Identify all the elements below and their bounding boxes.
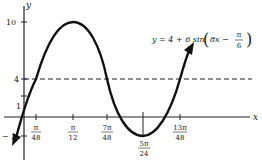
svg-text:7π: 7π: [102, 124, 111, 132]
svg-text:(: (: [203, 30, 209, 49]
svg-text:y = 4 + 6 sin: y = 4 + 6 sin: [151, 35, 205, 44]
svg-text:π: π: [71, 124, 76, 132]
svg-text:12: 12: [69, 134, 78, 142]
y-axis-label: y: [25, 0, 32, 10]
svg-text:): ): [246, 30, 252, 49]
svg-text:1: 1: [16, 102, 21, 111]
svg-text:8x −: 8x −: [210, 35, 229, 44]
svg-text:4: 4: [14, 75, 19, 84]
svg-text:13π: 13π: [173, 124, 187, 132]
svg-text:5π: 5π: [139, 140, 148, 148]
svg-text:6: 6: [237, 42, 242, 50]
svg-text:π: π: [237, 31, 242, 39]
curve-arrow-start: [12, 133, 21, 146]
equation-label: y = 4 + 6 sin ( 8x − π 6 ): [151, 30, 252, 50]
svg-text:48: 48: [103, 134, 112, 142]
svg-text:48: 48: [32, 134, 41, 142]
svg-text:24: 24: [140, 150, 149, 158]
x-axis-label: x: [253, 112, 258, 122]
svg-text:10: 10: [6, 18, 16, 27]
y-ticks: 10 4 1 − 2: [2, 18, 27, 141]
sine-chart: x y 10 4 1 − 2 π 48 π 12 7π 48 5π 24 13π…: [0, 0, 262, 168]
svg-text:π: π: [34, 124, 39, 132]
svg-text:48: 48: [176, 134, 185, 142]
